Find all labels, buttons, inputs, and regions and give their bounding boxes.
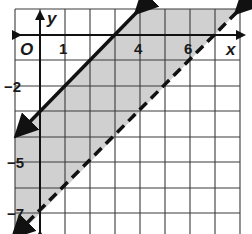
origin-label: O [20, 40, 33, 59]
coordinate-graph: y x O 1 4 6 −2 −5 −7 [0, 0, 252, 234]
x-axis-label: x [225, 40, 237, 59]
y-axis-label: y [46, 9, 58, 28]
y-tick-neg2: −2 [4, 78, 21, 95]
y-tick-neg5: −5 [7, 154, 24, 171]
x-tick-1: 1 [59, 40, 67, 57]
y-tick-neg7: −7 [7, 205, 24, 222]
shaded-solution-region [15, 9, 240, 234]
x-tick-6: 6 [184, 40, 192, 57]
x-tick-4: 4 [134, 40, 143, 57]
